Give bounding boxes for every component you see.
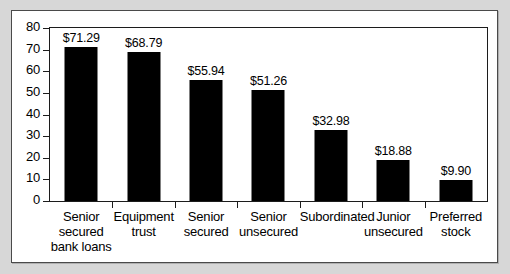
category-label-line: unsecured bbox=[237, 224, 299, 239]
bar-group[interactable]: $32.98 bbox=[300, 28, 362, 201]
category-label-line: Junior bbox=[362, 209, 424, 224]
y-axis-tick-mark bbox=[43, 71, 49, 72]
bar-group[interactable]: $18.88 bbox=[362, 28, 424, 201]
category-label-line: Senior bbox=[50, 209, 112, 224]
bar-group[interactable]: $9.90 bbox=[425, 28, 487, 201]
y-axis-tick-mark bbox=[43, 115, 49, 116]
category-label-line: unsecured bbox=[362, 224, 424, 239]
y-axis-tick-mark bbox=[43, 158, 49, 159]
bar-value-label: $71.29 bbox=[63, 31, 100, 45]
x-axis-tick-mark bbox=[300, 202, 301, 208]
bar[interactable] bbox=[65, 47, 98, 201]
bar-group[interactable]: $71.29 bbox=[50, 28, 112, 201]
y-axis-tick-mark bbox=[43, 179, 49, 180]
y-axis-tick-label: 50 bbox=[26, 84, 40, 99]
y-axis-tick-mark bbox=[43, 50, 49, 51]
bar[interactable] bbox=[190, 80, 223, 201]
bar-group[interactable]: $55.94 bbox=[175, 28, 237, 201]
category-label-line: Preferred bbox=[425, 209, 487, 224]
category-label-line: secured bbox=[175, 224, 237, 239]
y-axis-tick-label: 0 bbox=[33, 192, 40, 207]
category-label-line: Senior bbox=[175, 209, 237, 224]
category-label-line: Senior bbox=[237, 209, 299, 224]
bar[interactable] bbox=[439, 180, 472, 201]
bar[interactable] bbox=[377, 160, 410, 201]
x-axis-tick-mark bbox=[425, 202, 426, 208]
bar[interactable] bbox=[314, 130, 347, 201]
bar-chart: 80706050403020100 $71.29$68.79$55.94$51.… bbox=[12, 11, 497, 262]
y-axis-tick-label: 70 bbox=[26, 41, 40, 56]
y-axis-tick-label: 80 bbox=[26, 19, 40, 34]
bar[interactable] bbox=[252, 90, 285, 201]
category-label-line: Equipment bbox=[112, 209, 174, 224]
chart-figure-frame: 80706050403020100 $71.29$68.79$55.94$51.… bbox=[11, 10, 498, 263]
bars-layer: $71.29$68.79$55.94$51.26$32.98$18.88$9.9… bbox=[50, 28, 487, 201]
x-axis-category-label: Juniorunsecured bbox=[362, 209, 424, 239]
category-label-line: stock bbox=[425, 224, 487, 239]
bar-value-label: $55.94 bbox=[188, 64, 225, 78]
x-axis-category-label: Seniorsecuredbank loans bbox=[50, 209, 112, 254]
bar-value-label: $32.98 bbox=[312, 114, 349, 128]
x-axis-tick-mark bbox=[112, 202, 113, 208]
bar-value-label: $18.88 bbox=[375, 144, 412, 158]
x-axis-category-label: Subordinated bbox=[300, 209, 362, 224]
bar-value-label: $51.26 bbox=[250, 74, 287, 88]
x-axis-category-label: Seniorsecured bbox=[175, 209, 237, 239]
y-axis-tick-mark bbox=[43, 28, 49, 29]
bar-group[interactable]: $68.79 bbox=[112, 28, 174, 201]
x-axis-category-label: Equipmenttrust bbox=[112, 209, 174, 239]
bar-value-label: $9.90 bbox=[441, 164, 471, 178]
y-axis-tick-mark bbox=[43, 93, 49, 94]
bar[interactable] bbox=[127, 52, 160, 201]
y-axis-tick-mark bbox=[43, 201, 49, 202]
y-axis-tick-mark bbox=[43, 136, 49, 137]
x-axis-tick-mark bbox=[362, 202, 363, 208]
bar-group[interactable]: $51.26 bbox=[237, 28, 299, 201]
category-label-line: secured bbox=[50, 224, 112, 239]
bar-value-label: $68.79 bbox=[125, 36, 162, 50]
y-axis-tick-label: 20 bbox=[26, 149, 40, 164]
x-axis-category-label: Seniorunsecured bbox=[237, 209, 299, 239]
y-axis-tick-label: 40 bbox=[26, 106, 40, 121]
category-label-line: trust bbox=[112, 224, 174, 239]
x-axis-tick-mark bbox=[175, 202, 176, 208]
x-axis-tick-mark bbox=[237, 202, 238, 208]
x-axis-category-label: Preferredstock bbox=[425, 209, 487, 239]
category-label-line: Subordinated bbox=[300, 209, 362, 224]
y-axis-tick-label: 60 bbox=[26, 62, 40, 77]
category-label-line: bank loans bbox=[50, 239, 112, 254]
y-axis-tick-label: 10 bbox=[26, 170, 40, 185]
y-axis-tick-label: 30 bbox=[26, 127, 40, 142]
